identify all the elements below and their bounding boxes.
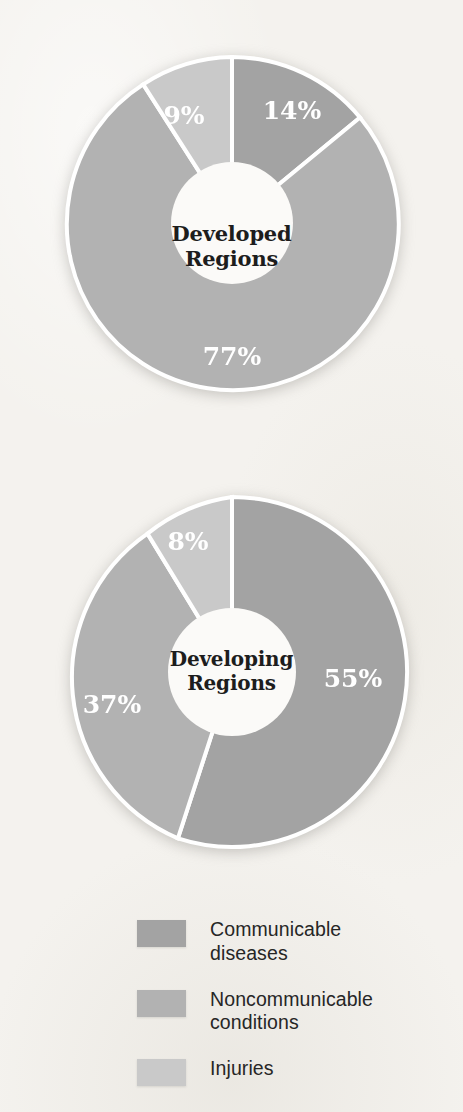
chart-legend: Communicable diseases Noncommunicable co…: [0, 918, 463, 1108]
data-label-communicable-developed: 14%: [262, 96, 321, 125]
legend-label-injuries: Injuries: [210, 1057, 274, 1081]
legend-label-noncommunicable: Noncommunicable conditions: [210, 988, 373, 1036]
center-label-developed: Developed Regions: [0, 222, 463, 272]
legend-swatch-communicable: [137, 920, 186, 947]
legend-item-noncommunicable[interactable]: Noncommunicable conditions: [0, 988, 463, 1036]
center-label-developing-line2: Regions: [0, 672, 463, 696]
legend-label-communicable: Communicable diseases: [210, 918, 341, 966]
data-label-injuries-developed: 9%: [163, 101, 204, 130]
legend-item-communicable[interactable]: Communicable diseases: [0, 918, 463, 966]
center-label-developed-line1: Developed: [0, 222, 463, 247]
legend-item-injuries[interactable]: Injuries: [0, 1057, 463, 1086]
data-label-noncommunicable-developed: 77%: [202, 342, 261, 371]
data-label-injuries-developing: 8%: [167, 527, 208, 556]
legend-swatch-injuries: [137, 1059, 186, 1086]
center-label-developing: Developing Regions: [0, 648, 463, 695]
center-label-developed-line2: Regions: [0, 247, 463, 272]
center-label-developing-line1: Developing: [0, 648, 463, 672]
legend-swatch-noncommunicable: [137, 990, 186, 1017]
